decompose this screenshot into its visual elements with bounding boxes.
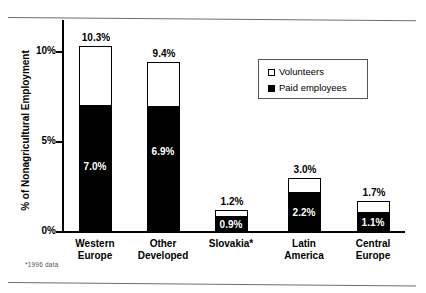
bar-group-central-europe: 1.7% 1.1% [357, 201, 390, 232]
bar-total-label: 1.7% [344, 187, 404, 198]
cat-line1: Slovakia* [209, 238, 253, 249]
bar-total-label: 9.4% [134, 48, 194, 59]
bar-segment-paid-employees: 6.9% [147, 106, 180, 232]
cat-line2: Europe [356, 250, 390, 261]
legend-label: Volunteers [279, 67, 324, 77]
bar-group-slovakia: 1.2% 0.9% [215, 210, 248, 232]
cat-line2: Europe [78, 250, 112, 261]
y-tick-mark-5 [56, 141, 62, 143]
cat-line1: Other [150, 238, 177, 249]
bar-total-label: 1.2% [202, 196, 262, 207]
bar-paid-label: 1.1% [357, 217, 390, 228]
legend-item-paid-employees: Paid employees [268, 83, 347, 93]
y-tick-mark-0 [56, 231, 62, 233]
bar-paid-label: 0.9% [215, 219, 248, 230]
bar-segment-paid-employees: 2.2% [288, 192, 321, 232]
bar-paid-label: 2.2% [288, 207, 321, 218]
x-category-label-central-europe: Central Europe [330, 238, 416, 262]
bar-total-label: 3.0% [275, 164, 335, 175]
bar-total-label: 10.3% [66, 32, 126, 43]
legend-item-volunteers: Volunteers [268, 67, 324, 77]
bar-segment-paid-employees: 0.9% [215, 216, 248, 232]
cat-line1: Latin [292, 238, 316, 249]
bar-group-western-europe: 10.3% 7.0% [79, 46, 112, 232]
bottom-rule [8, 282, 416, 287]
legend-swatch-filled-icon [268, 85, 275, 92]
y-tick-label-0: 0% [28, 226, 56, 236]
bar-group-latin-america: 3.0% 2.2% [288, 178, 321, 232]
bar-segment-volunteers [79, 46, 112, 106]
y-tick-label-10: 10% [28, 46, 56, 56]
bar-segment-volunteers [147, 62, 180, 107]
cat-line2: America [284, 250, 323, 261]
legend-swatch-open-icon [268, 69, 275, 76]
bar-paid-label: 7.0% [79, 161, 112, 172]
cat-line1: Central [356, 238, 390, 249]
y-tick-label-5: 5% [28, 136, 56, 146]
bar-segment-paid-employees: 1.1% [357, 212, 390, 232]
chart-figure: % of Nonagricultural Employment 10% 5% 0… [0, 0, 426, 293]
y-axis-line [62, 20, 64, 233]
chart-footnote: *1996 data [25, 261, 58, 269]
y-tick-mark-10 [56, 51, 62, 53]
bar-segment-volunteers [288, 178, 321, 193]
bar-paid-label: 6.9% [147, 146, 180, 157]
cat-line2: Developed [138, 250, 189, 261]
cat-line1: Western [75, 238, 114, 249]
legend-label: Paid employees [279, 83, 347, 93]
top-rule [8, 17, 416, 21]
bar-group-other-developed: 9.4% 6.9% [147, 62, 180, 232]
chart-legend: Volunteers Paid employees [258, 59, 368, 99]
bar-segment-paid-employees: 7.0% [79, 105, 112, 232]
